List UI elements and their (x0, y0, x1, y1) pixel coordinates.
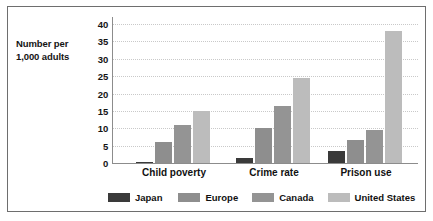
bar-group (236, 24, 312, 163)
y-axis-tick-label: 40 (86, 19, 108, 30)
bar (155, 142, 172, 163)
legend-color-swatch (252, 193, 274, 202)
y-axis-tick-label: 25 (86, 71, 108, 82)
chart-figure: Number per 1,000 adults 0510152025303540… (0, 0, 433, 221)
legend-item[interactable]: Europe (178, 192, 238, 203)
bar (193, 111, 210, 163)
y-axis-tick-labels: 0510152025303540 (86, 24, 108, 164)
bar (328, 151, 345, 163)
legend-label: Canada (279, 192, 313, 203)
legend-label: Europe (205, 192, 238, 203)
bar-group (328, 24, 404, 163)
bar-group (136, 24, 212, 163)
legend-color-swatch (328, 193, 350, 202)
legend-item[interactable]: Japan (108, 192, 162, 203)
bar (274, 106, 291, 163)
y-axis-title: Number per 1,000 adults (16, 38, 90, 63)
bar (385, 31, 402, 163)
y-axis-title-line-1: Number per (16, 38, 90, 51)
x-axis-category-labels: Child povertyCrime ratePrison use (112, 167, 418, 181)
bar (366, 130, 383, 163)
y-axis-tick-label: 35 (86, 36, 108, 47)
chart-legend: JapanEuropeCanadaUnited States (108, 189, 415, 205)
legend-item[interactable]: United States (328, 192, 416, 203)
plot-area-wrapper: 0510152025303540 (86, 24, 418, 164)
legend-label: United States (355, 192, 416, 203)
y-axis-tick-label: 20 (86, 88, 108, 99)
y-axis-title-line-2: 1,000 adults (16, 51, 90, 64)
x-axis-line (112, 163, 418, 164)
bar (293, 78, 310, 163)
plot-area (112, 24, 418, 164)
legend-item[interactable]: Canada (252, 192, 313, 203)
legend-label: Japan (135, 192, 162, 203)
bar (255, 128, 272, 163)
legend-color-swatch (178, 193, 200, 202)
y-axis-tick-label: 15 (86, 105, 108, 116)
legend-color-swatch (108, 193, 130, 202)
x-axis-category-label: Prison use (306, 167, 426, 178)
bar (174, 125, 191, 163)
bar (347, 140, 364, 163)
y-axis-tick-label: 5 (86, 140, 108, 151)
y-axis-tick-label: 10 (86, 123, 108, 134)
bar-series-container (112, 24, 418, 164)
y-axis-tick-label: 30 (86, 53, 108, 64)
y-axis-tick-label: 0 (86, 158, 108, 169)
